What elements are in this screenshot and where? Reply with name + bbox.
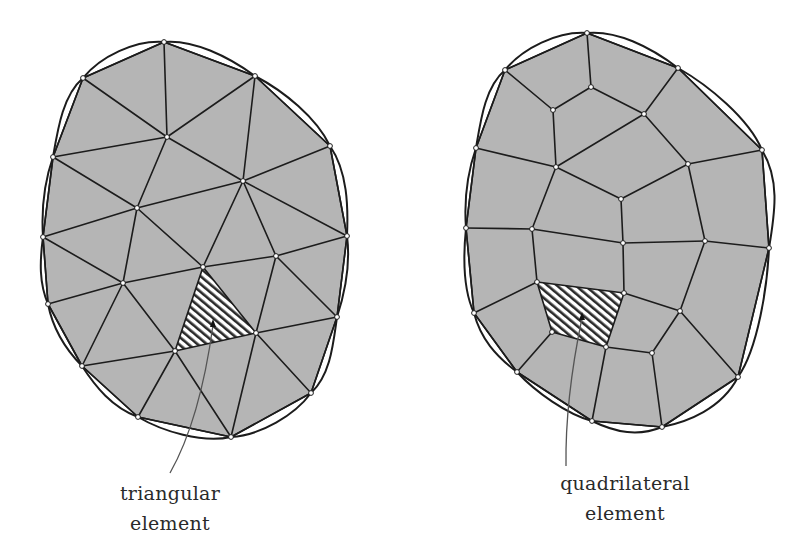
mesh-node <box>676 66 681 71</box>
mesh-node <box>678 309 683 314</box>
mesh-node <box>622 291 627 296</box>
label-line-1: triangular <box>100 478 240 508</box>
mesh-node <box>535 280 540 285</box>
mesh-node <box>619 197 624 202</box>
mesh-node <box>309 391 314 396</box>
mesh-node <box>254 331 259 336</box>
mesh-node <box>80 364 85 369</box>
mesh-node <box>554 165 559 170</box>
label-line-2: element <box>540 498 710 528</box>
mesh-node <box>590 419 595 424</box>
mesh-node <box>604 345 609 350</box>
mesh-node <box>760 148 765 153</box>
mesh-node <box>585 31 590 36</box>
mesh-node <box>335 315 340 320</box>
mesh-node <box>530 227 535 232</box>
mesh-node <box>503 68 508 73</box>
label-line-2: element <box>100 508 240 538</box>
mesh-node <box>515 370 520 375</box>
mesh-node <box>135 206 140 211</box>
mesh-node <box>46 302 51 307</box>
mesh-node <box>736 375 741 380</box>
mesh-node <box>550 330 555 335</box>
mesh-node <box>136 415 141 420</box>
mesh-node <box>51 155 56 160</box>
mesh-node <box>472 311 477 316</box>
mesh-node <box>162 40 167 45</box>
mesh-node <box>660 425 665 430</box>
quadrilateral-element-label: quadrilateral element <box>540 468 710 528</box>
mesh-node <box>589 85 594 90</box>
mesh-node <box>81 76 86 81</box>
mesh-node <box>703 239 708 244</box>
mesh-edge <box>466 228 532 229</box>
mesh-node <box>464 226 469 231</box>
mesh-node <box>474 146 479 151</box>
triangular-mesh <box>41 40 350 473</box>
mesh-node <box>551 108 556 113</box>
mesh-node <box>253 74 258 79</box>
mesh-node <box>229 435 234 440</box>
mesh-node <box>241 179 246 184</box>
triangular-element-label: triangular element <box>100 478 240 538</box>
mesh-node <box>173 349 178 354</box>
triangular-mesh-fill <box>43 42 347 437</box>
mesh-node <box>201 265 206 270</box>
mesh-node <box>121 281 126 286</box>
mesh-node <box>650 351 655 356</box>
mesh-node <box>686 162 691 167</box>
mesh-node <box>165 135 170 140</box>
mesh-node <box>328 144 333 149</box>
mesh-node <box>621 241 626 246</box>
mesh-edge <box>623 243 624 293</box>
mesh-node <box>767 246 772 251</box>
label-line-1: quadrilateral <box>540 468 710 498</box>
mesh-node <box>345 234 350 239</box>
mesh-node <box>642 112 647 117</box>
mesh-fill-region <box>43 42 347 437</box>
quadrilateral-mesh <box>464 31 775 466</box>
mesh-node <box>274 254 279 259</box>
mesh-node <box>41 235 46 240</box>
